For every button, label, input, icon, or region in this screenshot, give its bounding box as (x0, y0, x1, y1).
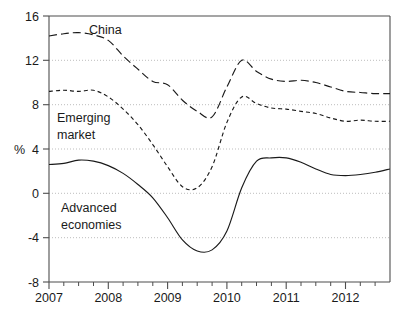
series-annotation-advanced-line1: Advanced (61, 201, 117, 215)
series-annotation-emerging-line2: market (57, 128, 96, 142)
series-annotation-emerging-line1: Emerging (57, 111, 111, 125)
y-tick-marks (43, 16, 49, 282)
series-annotation-advanced-line2: economies (61, 218, 121, 232)
x-tick-label-2009: 2009 (154, 291, 182, 305)
y-tick-label-minus8: -8 (28, 276, 39, 290)
y-tick-label-12: 12 (25, 54, 39, 68)
y-tick-label-8: 8 (32, 98, 39, 112)
y-axis-title: % (14, 143, 25, 157)
x-tick-label-2011: 2011 (273, 291, 300, 305)
x-tick-label-2010: 2010 (213, 291, 241, 305)
y-tick-label-4: 4 (32, 143, 39, 157)
line-chart: 16 12 8 4 0 -4 -8 % 2007 2008 2009 2010 … (0, 0, 402, 319)
x-tick-label-2008: 2008 (94, 291, 122, 305)
x-tick-label-2012: 2012 (332, 291, 360, 305)
x-tick-marks-minor (64, 282, 375, 286)
chart-svg: 16 12 8 4 0 -4 -8 % 2007 2008 2009 2010 … (0, 0, 402, 319)
y-tick-label-minus4: -4 (28, 231, 39, 245)
series-annotation-china: China (89, 23, 122, 37)
x-tick-label-2007: 2007 (35, 291, 63, 305)
y-tick-label-0: 0 (32, 187, 39, 201)
y-tick-label-16: 16 (25, 10, 39, 24)
series-line-china (49, 33, 390, 119)
